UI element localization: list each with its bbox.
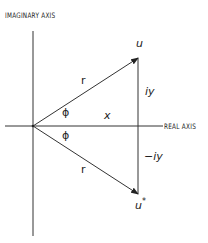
real-axis-label: REAL AXIS bbox=[164, 122, 196, 131]
magnitude-r-upper-label: r bbox=[81, 75, 86, 86]
angle-phi-lower-label: ϕ bbox=[62, 130, 69, 141]
point-u-text: u bbox=[136, 37, 143, 50]
vector-u-conjugate-arrow bbox=[33, 126, 138, 194]
point-u-label: u bbox=[136, 38, 143, 49]
point-u-conjugate-label: u* bbox=[135, 200, 146, 211]
real-part-x-label: x bbox=[104, 110, 111, 121]
conjugate-asterisk: * bbox=[142, 197, 146, 206]
origin-point bbox=[32, 125, 35, 128]
angle-phi-upper-label: ϕ bbox=[62, 107, 69, 118]
imaginary-part-minus-iy-label: −iy bbox=[144, 151, 163, 162]
imaginary-part-iy-label: iy bbox=[145, 86, 155, 97]
vector-u-arrow bbox=[33, 58, 138, 126]
imaginary-axis-label: IMAGINARY AXIS bbox=[5, 11, 55, 20]
magnitude-r-lower-label: r bbox=[81, 164, 86, 175]
point-u-conjugate-text: u bbox=[135, 199, 142, 212]
